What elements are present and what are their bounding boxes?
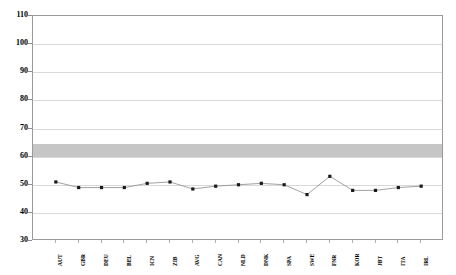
x-tick-label: DEU <box>103 254 109 266</box>
x-tick-mark <box>169 240 170 243</box>
y-tick-label: 60 <box>0 152 28 160</box>
x-tick-label: GBR <box>80 254 86 266</box>
x-tick-mark <box>78 240 79 243</box>
y-tick-label: 100 <box>0 39 28 47</box>
x-tick-label: KOR <box>354 253 360 266</box>
plot-area <box>32 15 443 240</box>
x-tick-label: ICN <box>149 256 155 266</box>
y-tick-label: 40 <box>0 208 28 216</box>
data-series-line <box>33 16 444 241</box>
x-tick-mark <box>123 240 124 243</box>
data-point-marker[interactable] <box>351 189 354 192</box>
y-tick-label: 50 <box>0 180 28 188</box>
y-tick-label: 80 <box>0 95 28 103</box>
x-tick-label: FNR <box>331 255 337 266</box>
x-tick-mark <box>215 240 216 243</box>
chart-root: 30405060708090100110 AUTGBRDEUBELICNZIBA… <box>0 0 456 275</box>
data-point-marker[interactable] <box>374 189 377 192</box>
data-point-marker[interactable] <box>237 183 240 186</box>
data-point-marker[interactable] <box>305 193 308 196</box>
data-point-marker[interactable] <box>146 182 149 185</box>
x-tick-label: AUT <box>57 254 63 266</box>
x-tick-label: NLD <box>240 254 246 266</box>
y-tick-label: 70 <box>0 124 28 132</box>
x-tick-label: DNK <box>263 254 269 266</box>
data-point-marker[interactable] <box>77 186 80 189</box>
x-tick-mark <box>260 240 261 243</box>
x-tick-label: JBT <box>377 256 383 266</box>
x-tick-label: ITA <box>400 257 406 266</box>
data-point-marker[interactable] <box>420 185 423 188</box>
x-tick-mark <box>238 240 239 243</box>
data-point-marker[interactable] <box>328 175 331 178</box>
x-tick-label: AVG <box>194 254 200 266</box>
x-tick-mark <box>352 240 353 243</box>
x-tick-mark <box>329 240 330 243</box>
data-point-marker[interactable] <box>123 186 126 189</box>
x-tick-label: SWE <box>309 254 315 266</box>
data-point-marker[interactable] <box>214 185 217 188</box>
y-tick-label: 30 <box>0 236 28 244</box>
y-tick-label: 90 <box>0 67 28 75</box>
x-tick-mark <box>101 240 102 243</box>
data-point-marker[interactable] <box>100 186 103 189</box>
y-tick-mark <box>28 240 32 241</box>
x-tick-mark <box>192 240 193 243</box>
x-tick-label: SPA <box>286 256 292 266</box>
x-tick-mark <box>55 240 56 243</box>
x-tick-mark <box>397 240 398 243</box>
data-point-marker[interactable] <box>54 180 57 183</box>
data-point-marker[interactable] <box>168 180 171 183</box>
x-tick-mark <box>146 240 147 243</box>
x-tick-label: ZIB <box>172 257 178 266</box>
x-tick-mark <box>420 240 421 243</box>
data-point-marker[interactable] <box>191 187 194 190</box>
data-point-marker[interactable] <box>397 186 400 189</box>
x-tick-label: CAN <box>217 254 223 266</box>
y-tick-label: 110 <box>0 11 28 19</box>
x-tick-mark <box>375 240 376 243</box>
x-tick-label: IRL <box>423 256 429 266</box>
x-tick-label: BEL <box>126 255 132 266</box>
data-point-marker[interactable] <box>283 183 286 186</box>
x-tick-mark <box>283 240 284 243</box>
data-point-marker[interactable] <box>260 182 263 185</box>
x-tick-mark <box>306 240 307 243</box>
